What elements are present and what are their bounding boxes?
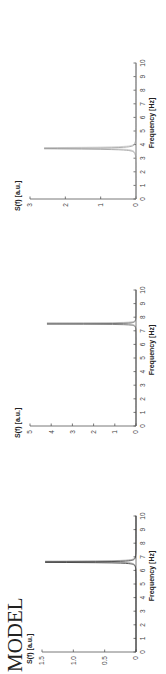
- y-tick-label: 1: [111, 430, 118, 434]
- spectrum-line: [45, 516, 136, 652]
- y-tick-label: 2: [90, 430, 97, 434]
- x-axis-label: Frequency [Hz]: [148, 325, 156, 376]
- x-tick-label: 2: [139, 623, 146, 627]
- x-tick-label: 10: [139, 286, 146, 294]
- chart-panel-2: S(f) [a.u.]012345012345678910Frequency […: [14, 286, 156, 438]
- x-tick-label: 0: [139, 650, 146, 654]
- x-tick-label: 2: [139, 397, 146, 401]
- x-tick-label: 9: [139, 301, 146, 305]
- spectrum-line: [47, 290, 136, 426]
- x-tick-label: 4: [139, 369, 146, 373]
- x-tick-label: 7: [139, 102, 146, 106]
- y-tick-label: 1.5: [38, 656, 45, 665]
- x-tick-label: 3: [139, 156, 146, 160]
- chart-panel-3: S(f) [a.u.]0123012345678910Frequency [Hz…: [14, 59, 156, 211]
- y-tick-label: 3: [69, 430, 76, 434]
- y-tick-label: 3: [26, 203, 33, 207]
- y-axis-label: S(f) [a.u.]: [14, 181, 22, 211]
- x-tick-label: 1: [139, 410, 146, 414]
- y-tick-label: 0: [132, 430, 139, 434]
- chart-panel-1: S(f) [a.u.]00.51.01.5012345678910Frequen…: [26, 512, 156, 665]
- figure-canvas: MODEL S(f) [a.u.]00.51.01.5012345678910F…: [0, 0, 166, 674]
- x-tick-label: 4: [139, 595, 146, 599]
- x-tick-label: 6: [139, 115, 146, 119]
- x-axis-label: Frequency [Hz]: [148, 551, 156, 602]
- y-tick-label: 0: [132, 656, 139, 660]
- y-tick-label: 0.5: [101, 656, 108, 665]
- x-tick-label: 3: [139, 383, 146, 387]
- x-tick-label: 1: [139, 636, 146, 640]
- x-tick-label: 8: [139, 541, 146, 545]
- y-tick-label: 4: [48, 430, 55, 434]
- y-tick-label: 1.0: [70, 656, 77, 665]
- x-tick-label: 5: [139, 129, 146, 133]
- x-tick-label: 4: [139, 142, 146, 146]
- x-tick-label: 1: [139, 183, 146, 187]
- x-tick-label: 5: [139, 582, 146, 586]
- spectrum-line-shadow: [44, 62, 136, 198]
- y-tick-label: 1: [97, 203, 104, 207]
- x-tick-label: 6: [139, 568, 146, 572]
- rotated-figure: MODEL S(f) [a.u.]00.51.01.5012345678910F…: [0, 0, 166, 674]
- spectrum-line-shadow: [47, 289, 136, 425]
- figure-title: MODEL: [3, 597, 27, 672]
- x-tick-label: 9: [139, 527, 146, 531]
- x-tick-label: 8: [139, 88, 146, 92]
- y-tick-label: 0: [132, 203, 139, 207]
- y-axis-label: S(f) [a.u.]: [26, 634, 34, 664]
- x-tick-label: 5: [139, 356, 146, 360]
- y-tick-label: 5: [26, 430, 33, 434]
- x-tick-label: 7: [139, 555, 146, 559]
- x-tick-label: 10: [139, 512, 146, 520]
- x-tick-label: 9: [139, 74, 146, 78]
- x-tick-label: 0: [139, 197, 146, 201]
- spectrum-line-shadow: [45, 515, 136, 651]
- y-tick-label: 2: [62, 203, 69, 207]
- x-tick-label: 0: [139, 424, 146, 428]
- x-axis-label: Frequency [Hz]: [148, 98, 156, 149]
- spectrum-line: [44, 63, 136, 199]
- x-tick-label: 6: [139, 342, 146, 346]
- x-tick-label: 2: [139, 170, 146, 174]
- x-tick-label: 10: [139, 59, 146, 67]
- x-tick-label: 7: [139, 329, 146, 333]
- x-tick-label: 8: [139, 315, 146, 319]
- x-tick-label: 3: [139, 609, 146, 613]
- y-axis-label: S(f) [a.u.]: [14, 408, 22, 438]
